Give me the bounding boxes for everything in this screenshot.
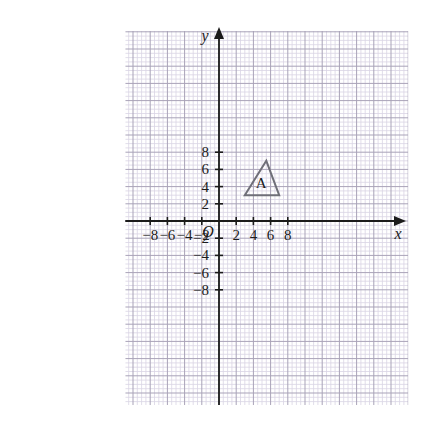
y-tick-label: 4 — [202, 179, 210, 195]
shape-label-a: A — [256, 175, 267, 191]
y-tick-label: 8 — [202, 144, 210, 160]
y-tick-label: 2 — [202, 196, 210, 212]
x-tick-label: −4 — [177, 227, 193, 243]
x-tick-label: 2 — [232, 227, 240, 243]
y-axis-label: y — [199, 27, 209, 45]
y-tick-label: −4 — [193, 247, 209, 263]
y-tick-label: 6 — [202, 161, 210, 177]
x-tick-label: −6 — [159, 227, 175, 243]
graph-canvas: A xyO −8−6−4−224688642−2−4−6−8 — [0, 0, 429, 421]
x-tick-label: −8 — [142, 227, 158, 243]
x-tick-label: 8 — [284, 227, 292, 243]
y-tick-label: −8 — [193, 282, 209, 298]
y-axis-arrow — [214, 27, 224, 39]
coordinate-grid-figure: A xyO −8−6−4−224688642−2−4−6−8 — [0, 0, 429, 421]
y-tick-label: −2 — [193, 230, 209, 246]
x-tick-label: 4 — [250, 227, 258, 243]
x-tick-label: 6 — [267, 227, 275, 243]
y-tick-label: −6 — [193, 265, 209, 281]
x-axis-label: x — [393, 225, 401, 242]
